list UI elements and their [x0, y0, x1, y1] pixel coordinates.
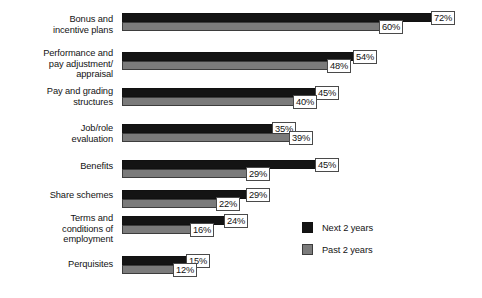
legend-label-past: Past 2 years — [322, 245, 372, 255]
category-label-line: evaluation — [0, 134, 113, 145]
bar-past-2-years: 48% — [122, 61, 328, 70]
bar-past-2-years: 60% — [122, 22, 380, 31]
legend-label-next: Next 2 years — [322, 223, 373, 233]
category-label-line: Share schemes — [0, 190, 113, 201]
legend-swatch-icon-past — [302, 244, 313, 255]
chart-legend: Next 2 years Past 2 years — [302, 222, 373, 266]
category-label-line: Pay and grading — [0, 86, 113, 97]
category-label-line: Benefits — [0, 161, 113, 172]
value-label-next: 72% — [431, 11, 455, 25]
bar-pair: 29%22% — [122, 190, 247, 208]
category-label-line: conditions of — [0, 224, 113, 235]
bar-past-2-years: 40% — [122, 97, 294, 106]
bar-chart: Bonus andincentive plans72%60%Performanc… — [0, 0, 482, 298]
bar-next-2-years: 45% — [122, 160, 316, 169]
bar-past-2-years: 29% — [122, 169, 247, 178]
category-label-line: Job/role — [0, 123, 113, 134]
bar-next-2-years: 35% — [122, 124, 273, 133]
value-label-next: 29% — [246, 188, 270, 202]
category-label-line: pay adjustment/ — [0, 59, 113, 70]
bar-pair: 15%12% — [122, 256, 187, 274]
bar-past-2-years: 22% — [122, 199, 217, 208]
bar-past-2-years: 16% — [122, 225, 191, 234]
bar-pair: 54%48% — [122, 52, 354, 70]
category-label-line: Performance and — [0, 48, 113, 59]
value-label-past: 39% — [289, 131, 313, 145]
value-label-past: 48% — [327, 59, 351, 73]
bar-next-2-years: 54% — [122, 52, 354, 61]
value-label-past: 29% — [246, 167, 270, 181]
category-label: Benefits — [0, 161, 113, 172]
value-label-past: 60% — [379, 20, 403, 34]
bar-pair: 45%29% — [122, 160, 316, 178]
value-label-past: 40% — [293, 95, 317, 109]
bar-past-2-years: 39% — [122, 133, 290, 142]
bar-pair: 35%39% — [122, 124, 290, 142]
bar-past-2-years: 12% — [122, 265, 174, 274]
category-label-line: Perquisites — [0, 259, 113, 270]
category-label-line: incentive plans — [0, 25, 113, 36]
value-label-next: 54% — [353, 50, 377, 64]
bar-pair: 24%16% — [122, 216, 225, 234]
value-label-next: 45% — [315, 86, 339, 100]
category-label: Bonus andincentive plans — [0, 14, 113, 35]
category-label-line: Terms and — [0, 213, 113, 224]
value-label-past: 12% — [173, 263, 197, 277]
category-label: Perquisites — [0, 259, 113, 270]
category-label-line: appraisal — [0, 69, 113, 80]
category-label-line: structures — [0, 97, 113, 108]
category-label: Job/roleevaluation — [0, 123, 113, 144]
value-label-next: 24% — [224, 214, 248, 228]
legend-swatch-icon-next — [302, 222, 313, 233]
value-label-past: 22% — [216, 197, 240, 211]
bar-pair: 45%40% — [122, 88, 316, 106]
value-label-past: 16% — [190, 223, 214, 237]
category-label: Pay and gradingstructures — [0, 86, 113, 107]
category-label: Performance andpay adjustment/appraisal — [0, 48, 113, 80]
legend-item-past-2-years: Past 2 years — [302, 244, 373, 255]
bar-next-2-years: 45% — [122, 88, 316, 97]
category-label: Terms andconditions ofemployment — [0, 213, 113, 245]
value-label-next: 45% — [315, 158, 339, 172]
legend-item-next-2-years: Next 2 years — [302, 222, 373, 233]
category-label-line: Bonus and — [0, 14, 113, 25]
category-label-line: employment — [0, 234, 113, 245]
category-label: Share schemes — [0, 190, 113, 201]
bar-pair: 72%60% — [122, 13, 432, 31]
